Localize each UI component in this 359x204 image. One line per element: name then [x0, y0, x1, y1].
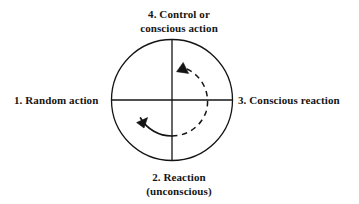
cycle-diagram: 4. Control or conscious action 1. Random… [0, 0, 359, 204]
label-quadrant-2-line2: (unconscious) [118, 184, 240, 198]
label-quadrant-3-line1: 3. Conscious reaction [238, 94, 340, 106]
arrowhead-toward-control [177, 63, 189, 74]
label-quadrant-4-line2: conscious action [120, 21, 238, 35]
label-quadrant-3-conscious-reaction: 3. Conscious reaction [238, 93, 340, 107]
label-quadrant-4-control: 4. Control or conscious action [120, 7, 238, 35]
inner-arc-dashed-segment [172, 69, 208, 137]
label-quadrant-2-line1: 2. Reaction [152, 171, 206, 183]
label-quadrant-2-reaction: 2. Reaction (unconscious) [118, 170, 240, 198]
label-quadrant-4-line1: 4. Control or [148, 8, 210, 20]
label-quadrant-1-line1: 1. Random action [14, 94, 98, 106]
label-quadrant-1-random-action: 1. Random action [14, 93, 98, 107]
